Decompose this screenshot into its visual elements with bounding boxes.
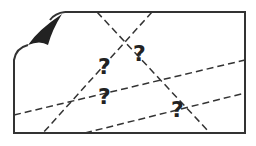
question-mark-1: ? — [98, 54, 111, 79]
question-mark-3: ? — [98, 84, 111, 109]
question-mark-2: ? — [133, 41, 146, 66]
page-curl-icon — [28, 14, 62, 45]
unknown-map-illustration: ? ? ? ? — [0, 0, 256, 146]
question-marks: ? ? ? ? — [98, 41, 184, 122]
question-mark-4: ? — [171, 97, 184, 122]
